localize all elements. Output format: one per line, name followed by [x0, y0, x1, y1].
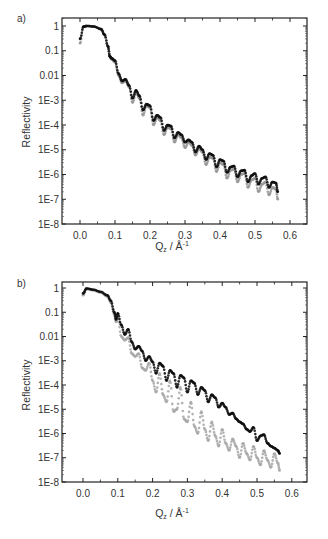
y-tick-label: 1: [53, 21, 59, 32]
x-tick-label: 0.6: [285, 488, 299, 499]
x-tick-label: 0.0: [73, 230, 87, 241]
panel-label-a: a): [17, 13, 26, 24]
panel-label-b: b): [17, 278, 26, 289]
x-tick-label: 0.4: [215, 488, 229, 499]
x-tick-labels-b: 0.00.10.20.30.40.50.6: [76, 488, 299, 499]
y-tick-label: 0.01: [40, 70, 60, 81]
x-tick-label: 0.5: [250, 488, 264, 499]
y-tick-label: 1E-4: [38, 120, 60, 131]
x-tick-label: 0.4: [213, 230, 227, 241]
x-tick-label: 0.2: [146, 488, 160, 499]
y-axis-title-a: Reflectivity: [20, 96, 32, 148]
y-tick-label: 1E-4: [38, 380, 60, 391]
y-tick-label: 1E-7: [38, 452, 60, 463]
data-points-a: [79, 25, 279, 201]
x-tick-labels-a: 0.00.10.20.30.40.50.6: [73, 230, 297, 241]
x-tick-label: 0.3: [180, 488, 194, 499]
y-tick-labels-b: 10.10.011E-31E-41E-51E-61E-71E-8: [38, 283, 60, 488]
x-tick-label: 0.1: [108, 230, 122, 241]
x-tick-label: 0.5: [248, 230, 262, 241]
y-tick-label: 1E-8: [38, 219, 60, 230]
y-tick-label: 1E-8: [38, 477, 60, 488]
x-tick-label: 0.6: [283, 230, 297, 241]
x-tick-label: 0.3: [178, 230, 192, 241]
y-tick-label: 0.1: [45, 307, 59, 318]
y-tick-label: 1: [53, 283, 59, 294]
y-tick-label: 1E-6: [38, 169, 60, 180]
y-tick-label: 1E-5: [38, 144, 60, 155]
y-tick-labels-a: 10.10.011E-31E-41E-51E-61E-71E-8: [38, 21, 60, 230]
data-points-b: [82, 287, 281, 472]
panel-a: a) Reflectivity Qz / Å-1 10.10.011E-31E-…: [17, 13, 307, 253]
y-tick-label: 0.01: [40, 331, 60, 342]
y-tick-label: 1E-7: [38, 194, 60, 205]
y-tick-label: 1E-3: [38, 95, 60, 106]
x-tick-label: 0.1: [111, 488, 125, 499]
y-tick-label: 1E-5: [38, 404, 60, 415]
x-axis-title-a: Qz / Å-1: [155, 240, 189, 253]
x-tick-label: 0.0: [76, 488, 90, 499]
y-tick-label: 0.1: [45, 45, 59, 56]
panel-b: b) Reflectivity Qz / Å-1 10.10.011E-31E-…: [17, 278, 307, 520]
y-tick-label: 1E-6: [38, 428, 60, 439]
x-axis-title-b: Qz / Å-1: [155, 507, 189, 520]
y-tick-label: 1E-3: [38, 355, 60, 366]
y-axis-title-b: Reflectivity: [20, 359, 32, 411]
x-tick-label: 0.2: [143, 230, 157, 241]
reflectivity-figure: a) Reflectivity Qz / Å-1 10.10.011E-31E-…: [0, 0, 328, 539]
